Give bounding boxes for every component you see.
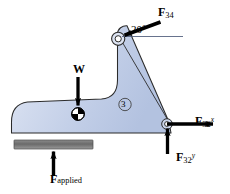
free-body-diagram: F34 F32x F32y W Fapplied 20° 3 [0,0,230,194]
top-pivot-hole [112,32,125,45]
force-label-w-symbol: W [73,62,85,76]
diagram-canvas [0,0,230,194]
force-label-f32x-subscript: 32 [202,120,210,129]
force-label-f32x: F32x [195,115,214,130]
force-label-f32y-superscript: y [192,151,195,160]
link-body [12,26,172,133]
force-label-f-applied: Fapplied [50,173,82,185]
force-label-f34-subscript: 34 [165,11,173,20]
force-label-w: W [73,63,85,75]
force-label-f32y-subscript: 32 [183,156,191,165]
force-label-f34: F34 [158,6,174,21]
force-label-f32x-superscript: x [211,115,214,124]
ground-bar [14,140,93,149]
link-number-label: 3 [121,100,126,109]
force-label-f32y: F32y [176,151,195,166]
angle-label-20deg: 20° [131,24,146,35]
force-label-f-applied-subscript: applied [57,176,82,185]
